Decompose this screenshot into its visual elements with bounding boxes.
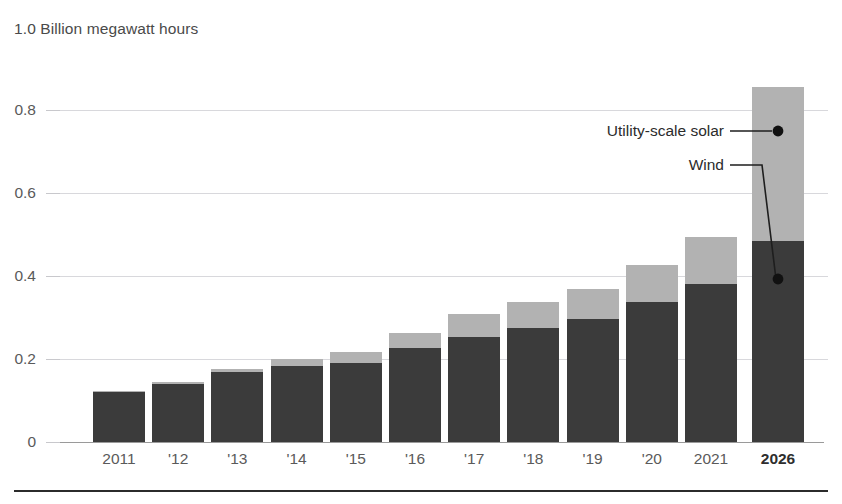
bar-segment-solar bbox=[389, 333, 441, 348]
x-tick-label-20: '20 bbox=[642, 450, 662, 468]
bar-segment-wind bbox=[567, 319, 619, 442]
x-tick-label-2021: 2021 bbox=[694, 450, 728, 468]
bar-segment-solar bbox=[448, 314, 500, 336]
y-tick-mark bbox=[46, 110, 60, 111]
bar-segment-wind bbox=[626, 302, 678, 442]
bar-segment-solar bbox=[271, 359, 323, 366]
bar-segment-solar bbox=[330, 352, 382, 362]
bar-segment-wind bbox=[93, 391, 145, 442]
bar-16[interactable] bbox=[389, 333, 441, 442]
y-tick-mark bbox=[46, 276, 60, 277]
x-tick-label-12: '12 bbox=[168, 450, 188, 468]
bar-segment-solar bbox=[93, 391, 145, 392]
y-tick-label: 0.4 bbox=[0, 267, 36, 285]
bar-segment-wind bbox=[330, 363, 382, 442]
bar-segment-solar bbox=[752, 87, 804, 241]
bar-segment-solar bbox=[507, 302, 559, 328]
x-tick-label-13: '13 bbox=[227, 450, 247, 468]
y-tick-label: 0.2 bbox=[0, 350, 36, 368]
bar-19[interactable] bbox=[567, 289, 619, 442]
x-tick-label-18: '18 bbox=[523, 450, 543, 468]
bar-2026[interactable] bbox=[752, 87, 804, 442]
bar-segment-wind bbox=[211, 372, 263, 442]
x-tick-label-15: '15 bbox=[346, 450, 366, 468]
bar-13[interactable] bbox=[211, 369, 263, 442]
annotation-label-utility-scale-solar: Utility-scale solar bbox=[607, 122, 724, 140]
x-tick-label-2026: 2026 bbox=[761, 450, 795, 468]
bar-20[interactable] bbox=[626, 265, 678, 442]
x-tick-label-16: '16 bbox=[405, 450, 425, 468]
bar-segment-wind bbox=[152, 384, 204, 443]
y-tick-label: 0.6 bbox=[0, 184, 36, 202]
y-tick-label: 0 bbox=[0, 433, 36, 451]
y-tick-mark bbox=[46, 359, 60, 360]
bar-15[interactable] bbox=[330, 352, 382, 442]
bar-segment-wind bbox=[389, 348, 441, 442]
bar-segment-solar bbox=[152, 382, 204, 384]
bar-2011[interactable] bbox=[93, 391, 145, 442]
bar-12[interactable] bbox=[152, 382, 204, 442]
y-tick-label: 0.8 bbox=[0, 101, 36, 119]
bar-segment-wind bbox=[448, 337, 500, 442]
x-tick-label-2011: 2011 bbox=[102, 450, 135, 468]
x-tick-label-19: '19 bbox=[582, 450, 602, 468]
bar-segment-wind bbox=[685, 284, 737, 442]
bar-group bbox=[60, 20, 828, 444]
bar-segment-solar bbox=[567, 289, 619, 319]
bar-segment-wind bbox=[271, 366, 323, 442]
y-tick-mark bbox=[46, 442, 60, 443]
plot-area bbox=[60, 20, 828, 444]
y-tick-mark bbox=[46, 193, 60, 194]
x-tick-label-14: '14 bbox=[286, 450, 306, 468]
bar-segment-solar bbox=[211, 369, 263, 373]
bar-segment-wind bbox=[752, 241, 804, 442]
chart-figure: 1.0 Billion megawatt hours 00.20.40.60.8… bbox=[0, 0, 842, 504]
bar-segment-solar bbox=[626, 265, 678, 302]
bar-18[interactable] bbox=[507, 302, 559, 442]
bar-2021[interactable] bbox=[685, 237, 737, 442]
bar-segment-solar bbox=[685, 237, 737, 285]
bar-14[interactable] bbox=[271, 359, 323, 442]
x-tick-label-17: '17 bbox=[464, 450, 484, 468]
footer-divider-rule bbox=[14, 490, 828, 492]
bar-segment-wind bbox=[507, 328, 559, 442]
bar-17[interactable] bbox=[448, 314, 500, 442]
annotation-label-wind: Wind bbox=[689, 156, 724, 174]
